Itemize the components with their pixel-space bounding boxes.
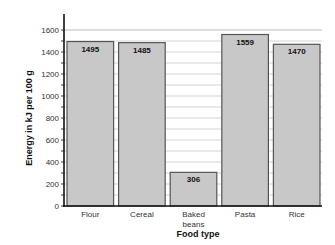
data-label: 1495 [81, 45, 99, 54]
category-label: Pasta [235, 210, 256, 219]
y-tick-label: 1600 [41, 26, 59, 35]
y-tick-label: 400 [46, 158, 60, 167]
y-tick-label: 600 [46, 136, 60, 145]
y-tick-label: 1400 [41, 48, 59, 57]
bar-pasta [222, 35, 269, 206]
category-label: Baked [182, 210, 205, 219]
category-label: Flour [81, 210, 100, 219]
bars: 1495148530615591470 [67, 35, 320, 206]
data-label: 1559 [236, 38, 254, 47]
data-label: 1470 [288, 47, 306, 56]
y-tick-label: 1000 [41, 92, 59, 101]
data-label: 306 [187, 175, 201, 184]
y-tick-label: 1200 [41, 70, 59, 79]
y-tick-label: 0 [55, 202, 60, 211]
category-label: Rice [289, 210, 306, 219]
category-label: Cereal [130, 210, 154, 219]
bar-chart: 1495148530615591470 02004006008001000120… [0, 0, 335, 245]
y-tick-label: 200 [46, 180, 60, 189]
y-axis: 02004006008001000120014001600 [41, 14, 64, 211]
y-tick-label: 800 [46, 114, 60, 123]
y-axis-title: Energy in kJ per 100 g [24, 70, 34, 166]
bar-flour [67, 42, 114, 206]
data-label: 1485 [133, 46, 151, 55]
bar-cereal [119, 43, 166, 206]
bar-rice [273, 44, 320, 206]
x-axis-title: Food type [177, 229, 220, 239]
category-label: beans [183, 220, 205, 229]
x-axis: FlourCerealBakedbeansPastaRice [63, 206, 322, 229]
